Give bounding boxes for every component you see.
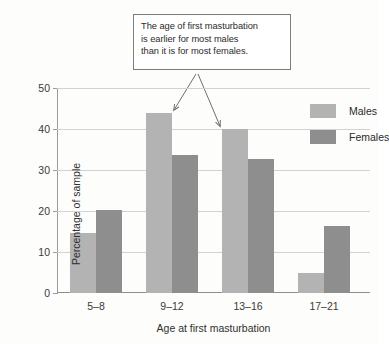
y-axis-title: Percentage of sample <box>70 124 82 304</box>
xtick-label-2: 13–16 <box>233 300 262 312</box>
chart-legend: Males Females <box>310 100 389 152</box>
bar-males-17-21 <box>298 273 324 294</box>
ytick-label-30: 30 <box>38 164 50 176</box>
bar-females-13-16 <box>248 159 274 293</box>
tick-mark-0 <box>53 293 57 294</box>
legend-label-females: Females <box>349 131 389 143</box>
legend-item-females: Females <box>310 126 389 147</box>
callout-line-1: The age of first masturbation <box>141 20 283 33</box>
bar-females-9-12 <box>172 155 198 293</box>
xtick-label-1: 9–12 <box>160 300 183 312</box>
bar-females-5-8 <box>96 210 122 293</box>
ytick-label-20: 20 <box>38 205 50 217</box>
bar-females-17-21 <box>324 226 350 293</box>
callout-line-2: is earlier for most males <box>141 33 283 46</box>
x-axis-title: Age at first masturbation <box>57 322 370 334</box>
ytick-label-50: 50 <box>38 82 50 94</box>
plot-area: 50 40 30 20 10 0 <box>57 88 370 293</box>
ytick-label-10: 10 <box>38 246 50 258</box>
legend-label-males: Males <box>349 105 377 117</box>
legend-swatch-females <box>310 130 336 144</box>
gridline-0: 0 <box>57 293 370 294</box>
legend-item-males: Males <box>310 100 389 121</box>
ytick-label-40: 40 <box>38 123 50 135</box>
legend-swatch-males <box>310 104 336 118</box>
bar-males-9-12 <box>146 113 172 293</box>
callout-annotation-box: The age of first masturbation is earlier… <box>133 14 291 70</box>
xtick-label-3: 17–21 <box>309 300 338 312</box>
xtick-label-0: 5–8 <box>87 300 105 312</box>
ytick-label-0: 0 <box>44 287 50 299</box>
bar-males-13-16 <box>222 129 248 293</box>
callout-line-3: than it is for most females. <box>141 45 283 58</box>
